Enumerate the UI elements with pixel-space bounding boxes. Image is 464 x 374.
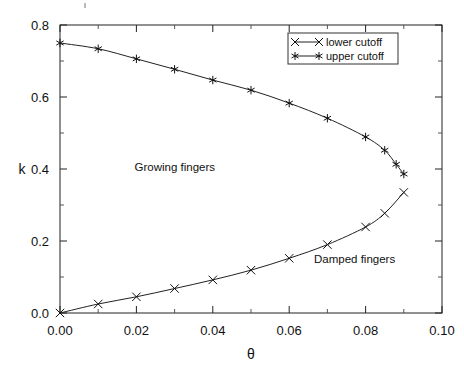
x-tick-label: 0.04	[200, 323, 225, 338]
y-tick-label: 0.2	[31, 234, 49, 249]
legend-label-upper-cutoff: upper cutoff	[326, 50, 385, 62]
annotation-growing-fingers: Growing fingers	[134, 161, 215, 173]
x-tick-label: 0.02	[124, 323, 149, 338]
figure-container: 0.000.020.040.060.080.100.00.20.40.60.8θ…	[0, 0, 464, 374]
x-tick-label: 0.00	[47, 323, 72, 338]
x-tick-label: 0.08	[353, 323, 378, 338]
x-tick-label: 0.06	[277, 323, 302, 338]
legend-label-lower-cutoff: lower cutoff	[326, 36, 383, 48]
y-tick-label: 0.0	[31, 306, 49, 321]
phase-diagram-chart: 0.000.020.040.060.080.100.00.20.40.60.8θ…	[0, 0, 464, 374]
x-tick-label: 0.10	[429, 323, 454, 338]
y-tick-label: 0.8	[31, 18, 49, 33]
y-tick-label: 0.4	[31, 162, 49, 177]
x-axis-label: θ	[247, 346, 255, 362]
y-tick-label: 0.6	[31, 90, 49, 105]
y-axis-label: k	[19, 161, 27, 177]
annotation-damped-fingers: Damped fingers	[314, 253, 395, 265]
